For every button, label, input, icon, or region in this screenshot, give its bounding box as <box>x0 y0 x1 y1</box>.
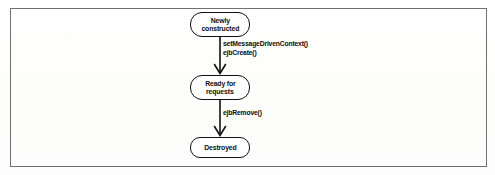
state-label-line2: requests <box>206 88 234 96</box>
state-label-line2: constructed <box>201 25 239 33</box>
state-node-ready-for-requests: Ready for requests <box>190 75 250 100</box>
transition-label-line2: ejbCreate() <box>223 49 308 58</box>
transition-label-line1: ejbRemove() <box>223 109 262 118</box>
state-label-line1: Destroyed <box>204 144 236 152</box>
state-node-destroyed: Destroyed <box>190 137 250 158</box>
state-node-newly-constructed: Newly constructed <box>190 12 250 37</box>
transition-label-ready-to-destroyed: ejbRemove() <box>223 109 262 118</box>
transition-label-construct-to-ready: setMessageDrivenContext() ejbCreate() <box>223 40 308 57</box>
transition-ready-to-destroyed <box>214 100 226 136</box>
figure-container: Newly constructed Ready for requests Des… <box>0 0 495 175</box>
